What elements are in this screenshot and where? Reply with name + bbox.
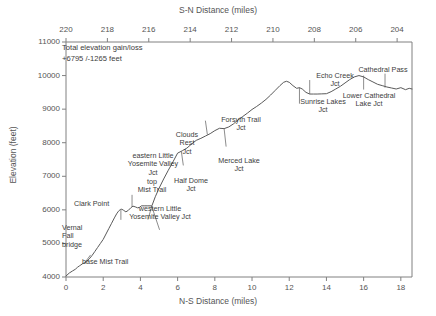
poi-label: Echo Creek Jct xyxy=(313,72,357,89)
poi-label: top Mist Trail xyxy=(131,178,173,195)
poi-label: western Little Yosemite Valley Jct xyxy=(122,205,198,222)
note-value: +6795 /-1265 feet xyxy=(62,54,122,64)
poi-label: Vernal Fall bridge xyxy=(62,224,96,249)
poi-label: Forsyth Trail Jct xyxy=(215,116,267,133)
poi-label: Merced Lake Jct xyxy=(212,157,266,174)
poi-label: Cathedral Pass xyxy=(354,66,412,74)
note-title: Total elevation gain/loss xyxy=(62,43,143,53)
poi-label: base Mist Trail xyxy=(82,258,146,266)
poi-label: Clouds Rest Jct xyxy=(172,131,202,156)
poi-label: Clark Point xyxy=(74,200,120,208)
poi-label: Half Dome Jct xyxy=(168,177,214,194)
elevation-profile-chart: S-N Distance (miles) N-S Distance (miles… xyxy=(0,0,436,316)
poi-label: Lower Cathedral Lake Jct xyxy=(338,92,400,109)
